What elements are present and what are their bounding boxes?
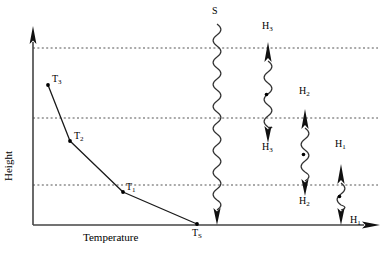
curve-label-t3-subscript: 3 <box>58 78 62 86</box>
wave-h3-bottom-label: H3 <box>262 142 273 152</box>
curve-point-t2 <box>68 139 72 143</box>
curve-label-t2-subscript: 2 <box>80 135 84 143</box>
figure-canvas: Height Temperature T3T2T1TSSH3H3H2H2H1H1 <box>0 0 386 255</box>
wave-h3-mid-dot <box>265 93 269 97</box>
curve-point-ts <box>195 222 199 226</box>
wave-h3-bottom-label-subscript: 3 <box>269 146 273 154</box>
curve-label-ts-subscript: S <box>198 232 202 240</box>
wave-h2-bottom-label-subscript: 2 <box>306 200 310 208</box>
wave-h1-up-arrowhead-icon <box>337 164 344 184</box>
wave-h2-bottom-label: H2 <box>299 196 310 206</box>
curve-point-t1 <box>121 190 125 194</box>
curve-label-t3: T3 <box>52 74 62 84</box>
wave-h1-bottom-label-subscript: 1 <box>357 219 361 227</box>
curve-label-ts: TS <box>192 228 202 238</box>
wave-h2-up-arrowhead-icon <box>301 109 308 129</box>
y-axis-arrowhead-icon <box>30 26 37 44</box>
curve-label-t2: T2 <box>74 131 84 141</box>
x-axis-label: Temperature <box>83 232 138 243</box>
temperature-curve <box>46 83 199 226</box>
wave-s-top-label: S <box>212 6 218 16</box>
wave-h1-mid-dot <box>338 195 342 199</box>
wave-h2-top-label: H2 <box>299 86 310 96</box>
wave-h1-bottom-label: H1 <box>350 215 361 225</box>
wave-columns-group <box>213 24 345 225</box>
y-axis-label: Height <box>3 151 14 181</box>
wave-h2-top-label-subscript: 2 <box>306 90 310 98</box>
axes-group <box>30 26 380 228</box>
wave-h1-down-arrowhead-icon <box>337 208 344 225</box>
wave-h2-mid-dot <box>302 153 306 157</box>
x-axis-arrowhead-icon <box>362 222 380 229</box>
curve-point-t3 <box>46 83 50 87</box>
wave-h3-up-arrowhead-icon <box>264 42 271 62</box>
wave-h1-top-label: H1 <box>335 139 346 149</box>
wave-h3-top-label-subscript: 3 <box>269 25 273 33</box>
dotted-level-lines <box>33 48 378 185</box>
curve-label-t1-subscript: 1 <box>132 186 136 194</box>
diagram-svg <box>0 0 386 255</box>
wave-s-wavy-line <box>213 24 221 210</box>
wave-h2-down-arrowhead-icon <box>301 179 308 196</box>
wave-s-down-arrowhead-icon <box>213 208 220 225</box>
wave-h1-top-label-subscript: 1 <box>342 143 346 151</box>
curve-polyline <box>48 85 197 224</box>
wave-h3-top-label: H3 <box>262 21 273 31</box>
curve-label-t1: T1 <box>126 182 136 192</box>
